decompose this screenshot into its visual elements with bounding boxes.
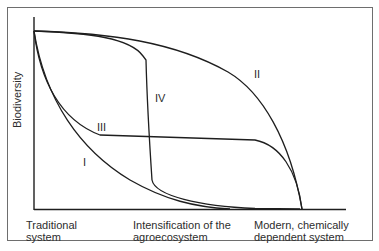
curve-III <box>34 31 302 209</box>
x-label-intensification-line2: agroecosystem <box>133 231 231 243</box>
x-label-modern-line2: dependent system <box>254 231 349 243</box>
x-label-traditional-line1: Traditional <box>26 219 77 231</box>
curve-I <box>34 31 230 209</box>
y-axis-label: Biodiversity <box>11 72 23 128</box>
curve-label-II: II <box>254 68 260 80</box>
x-label-traditional-line2: system <box>26 231 77 243</box>
curve-label-I: I <box>83 156 86 168</box>
x-label-modern-line1: Modern, chemically <box>254 219 349 231</box>
curve-label-III: III <box>97 121 106 133</box>
x-label-intensification-line1: Intensification of the <box>133 219 231 231</box>
curve-label-IV: IV <box>155 92 165 104</box>
x-label-intensification: Intensification of the agroecosystem <box>133 219 231 243</box>
biodiversity-plot <box>0 0 379 251</box>
x-label-traditional: Traditional system <box>26 219 77 243</box>
x-label-modern: Modern, chemically dependent system <box>254 219 349 243</box>
